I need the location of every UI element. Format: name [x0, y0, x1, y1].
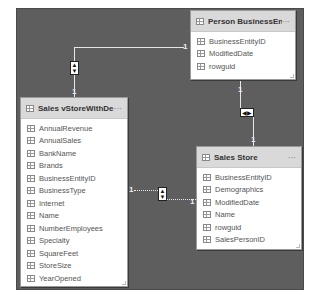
more-options-icon[interactable]: ···: [114, 104, 122, 113]
more-options-icon[interactable]: ···: [288, 153, 296, 162]
field-icon: [203, 236, 211, 243]
field-icon: [203, 224, 211, 231]
cross-filter-both-icon[interactable]: ◀ ▶: [240, 108, 254, 117]
field-icon: [203, 174, 211, 181]
field-name: BankName: [39, 149, 76, 158]
field-icon: [27, 150, 35, 157]
table-card-sales-store[interactable]: Sales Store ··· BusinessEntityID Demogra…: [196, 146, 302, 250]
table-card-person-businessentity[interactable]: Person BusinessEntity ··· BusinessEntity…: [190, 10, 296, 80]
resize-grip[interactable]: [296, 244, 300, 248]
field-name: Name: [215, 210, 235, 219]
field-icon: [27, 175, 35, 182]
field-name: BusinessType: [39, 186, 86, 195]
field-item[interactable]: StoreSize: [21, 260, 127, 273]
field-item[interactable]: BusinessEntityID: [191, 35, 295, 48]
field-icon: [197, 50, 205, 57]
field-item[interactable]: SquareFeet: [21, 247, 127, 260]
field-item[interactable]: BusinessEntityID: [197, 171, 301, 184]
table-icon: [202, 154, 210, 161]
table-card-sales-vstorewithdemographics[interactable]: Sales vStoreWithDe... ··· AnnualRevenue …: [20, 97, 128, 287]
table-icon: [196, 18, 204, 25]
field-icon: [27, 275, 35, 282]
field-name: ModifiedDate: [209, 49, 253, 58]
field-icon: [27, 250, 35, 257]
table-title: Sales vStoreWithDe...: [38, 104, 114, 113]
field-item[interactable]: Internet: [21, 197, 127, 210]
field-icon: [27, 125, 35, 132]
field-icon: [27, 200, 35, 207]
field-item[interactable]: Specialty: [21, 235, 127, 248]
relationship-line-person-vstore-h[interactable]: [74, 47, 184, 48]
field-icon: [27, 212, 35, 219]
field-name: BusinessEntityID: [215, 173, 272, 182]
resize-grip[interactable]: [290, 74, 294, 78]
cardinality-label: 1: [72, 88, 76, 96]
field-item[interactable]: ModifiedDate: [197, 196, 301, 209]
field-item[interactable]: YearOpened: [21, 272, 127, 285]
field-item[interactable]: SalesPersonID: [197, 234, 301, 247]
table-title: Sales Store: [214, 153, 288, 162]
cardinality-label: 1: [183, 43, 187, 51]
field-icon: [197, 38, 205, 45]
field-name: SquareFeet: [39, 249, 78, 258]
field-name: rowguid: [209, 62, 235, 71]
field-name: AnnualRevenue: [39, 124, 92, 133]
field-icon: [203, 211, 211, 218]
field-name: BusinessEntityID: [39, 174, 96, 183]
field-icon: [27, 262, 35, 269]
field-name: YearOpened: [39, 274, 81, 283]
field-item[interactable]: AnnualSales: [21, 135, 127, 148]
field-list: BusinessEntityID Demographics ModifiedDa…: [197, 168, 301, 246]
field-name: ModifiedDate: [215, 198, 259, 207]
field-name: Demographics: [215, 185, 263, 194]
field-item[interactable]: AnnualRevenue: [21, 122, 127, 135]
more-options-icon[interactable]: ···: [282, 17, 290, 26]
field-item[interactable]: BusinessType: [21, 185, 127, 198]
field-item[interactable]: Demographics: [197, 184, 301, 197]
field-item[interactable]: Name: [197, 209, 301, 222]
field-item[interactable]: rowguid: [197, 221, 301, 234]
field-icon: [27, 237, 35, 244]
field-icon: [203, 186, 211, 193]
field-icon: [27, 225, 35, 232]
cardinality-label: 1: [238, 86, 242, 94]
field-item[interactable]: rowguid: [191, 60, 295, 73]
field-icon: [197, 63, 205, 70]
field-name: Brands: [39, 161, 63, 170]
field-item[interactable]: Brands: [21, 160, 127, 173]
field-list: BusinessEntityID ModifiedDate rowguid: [191, 32, 295, 73]
cross-filter-both-icon[interactable]: ▲ ▼: [70, 61, 79, 75]
arrow-down-icon: ▼: [72, 68, 78, 74]
field-name: AnnualSales: [39, 136, 81, 145]
cardinality-label: 1: [129, 186, 133, 194]
field-icon: [27, 187, 35, 194]
field-name: Name: [39, 211, 59, 220]
arrow-down-icon: ▼: [160, 194, 166, 200]
field-name: Specialty: [39, 236, 69, 245]
table-icon: [26, 105, 34, 112]
field-name: BusinessEntityID: [209, 37, 266, 46]
table-header[interactable]: Sales vStoreWithDe... ···: [21, 98, 127, 119]
field-item[interactable]: BusinessEntityID: [21, 172, 127, 185]
field-name: NumberEmployees: [39, 224, 103, 233]
cardinality-label: 1: [251, 136, 255, 144]
field-item[interactable]: ModifiedDate: [191, 48, 295, 61]
resize-grip[interactable]: [122, 281, 126, 285]
field-icon: [203, 199, 211, 206]
field-name: StoreSize: [39, 261, 72, 270]
field-name: Internet: [39, 199, 64, 208]
field-item[interactable]: NumberEmployees: [21, 222, 127, 235]
field-icon: [27, 162, 35, 169]
field-item[interactable]: BankName: [21, 147, 127, 160]
field-name: rowguid: [215, 223, 241, 232]
table-title: Person BusinessEntity: [208, 17, 282, 26]
table-header[interactable]: Person BusinessEntity ···: [191, 11, 295, 32]
field-name: SalesPersonID: [215, 235, 265, 244]
field-list: AnnualRevenue AnnualSales BankName Brand…: [21, 119, 127, 285]
table-header[interactable]: Sales Store ···: [197, 147, 301, 168]
cross-filter-both-icon[interactable]: ▲ ▼: [158, 187, 167, 201]
field-item[interactable]: Name: [21, 210, 127, 223]
field-icon: [27, 137, 35, 144]
arrow-right-icon: ▶: [247, 110, 252, 116]
cardinality-label: 1: [190, 198, 194, 206]
